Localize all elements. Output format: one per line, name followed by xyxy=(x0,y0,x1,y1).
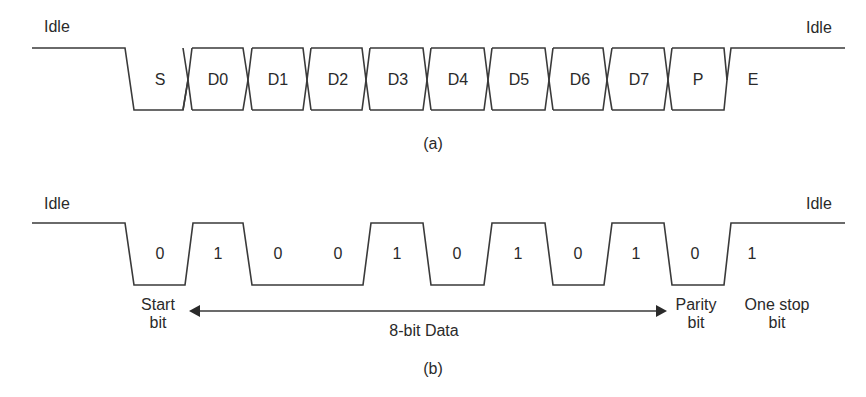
field-d3: D3 xyxy=(388,71,408,89)
bit-3: 0 xyxy=(334,245,343,263)
bit-7: 0 xyxy=(574,245,583,263)
bit-2: 0 xyxy=(274,245,283,263)
parity-bit-label-line1: Parity xyxy=(676,296,717,314)
field-d4: D4 xyxy=(448,71,468,89)
bit-4: 1 xyxy=(393,245,402,263)
panel-a-idle-right-label: Idle xyxy=(806,19,832,37)
bit-1: 1 xyxy=(214,245,223,263)
bit-8: 1 xyxy=(632,245,641,263)
field-d1: D1 xyxy=(268,71,288,89)
arrow-right-head-icon xyxy=(656,305,667,317)
field-d5: D5 xyxy=(509,71,529,89)
field-end: E xyxy=(748,71,759,89)
bit-5: 0 xyxy=(453,245,462,263)
parity-bit-label-line2: bit xyxy=(688,314,705,332)
panel-b-waveform xyxy=(32,223,845,285)
panel-b-caption: (b) xyxy=(423,360,443,378)
start-bit-label-line1: Start xyxy=(141,296,175,314)
data-span-label: 8-bit Data xyxy=(389,322,458,340)
field-start: S xyxy=(155,71,166,89)
start-bit-label-line2: bit xyxy=(150,314,167,332)
bit-0: 0 xyxy=(156,245,165,263)
field-d0: D0 xyxy=(208,71,228,89)
stop-bit-label-line1: One stop xyxy=(745,296,810,314)
arrow-left-head-icon xyxy=(189,305,200,317)
panel-a-idle-left-label: Idle xyxy=(44,18,70,36)
stop-bit-label-line2: bit xyxy=(769,314,786,332)
bit-6: 1 xyxy=(514,245,523,263)
panel-b-idle-left-label: Idle xyxy=(44,195,70,213)
bit-10: 1 xyxy=(748,245,757,263)
field-d6: D6 xyxy=(570,71,590,89)
field-d7: D7 xyxy=(629,71,649,89)
bit-9: 0 xyxy=(691,245,700,263)
data-span-arrow xyxy=(189,305,667,317)
field-d2: D2 xyxy=(328,71,348,89)
field-parity: P xyxy=(693,71,704,89)
panel-b-idle-right-label: Idle xyxy=(806,195,832,213)
panel-a-caption: (a) xyxy=(423,135,443,153)
